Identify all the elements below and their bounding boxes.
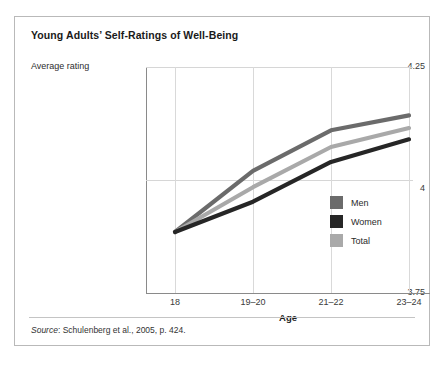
figure-panel: Young Adults’ Self-Ratings of Well-Being… [14,16,430,346]
chart-legend: Men Women Total [330,193,414,250]
footer-divider [29,317,415,318]
legend-label-women: Women [351,217,382,227]
legend-label-men: Men [351,198,369,208]
legend-item-total: Total [330,231,414,250]
source-text: : Schulenberg et al., 2005, p. 424. [58,325,186,335]
x-tick-label-18: 18 [170,297,180,307]
plot-area [146,67,413,293]
series-group [146,67,413,293]
legend-swatch-men-icon [330,196,343,209]
x-tick-label-19-20: 19–20 [240,297,265,307]
x-axis-line [146,293,430,294]
y-axis-title: Average rating [31,61,89,71]
source-note: Source: Schulenberg et al., 2005, p. 424… [31,325,186,335]
chart-title: Young Adults’ Self-Ratings of Well-Being [31,29,238,41]
legend-item-men: Men [330,193,414,212]
x-tick-label-23-24: 23–24 [396,297,421,307]
x-tick-label-21-22: 21–22 [318,297,343,307]
legend-label-total: Total [351,236,370,246]
legend-swatch-women-icon [330,215,343,228]
legend-swatch-total-icon [330,234,343,247]
source-label: Source [31,325,58,335]
legend-item-women: Women [330,212,414,231]
